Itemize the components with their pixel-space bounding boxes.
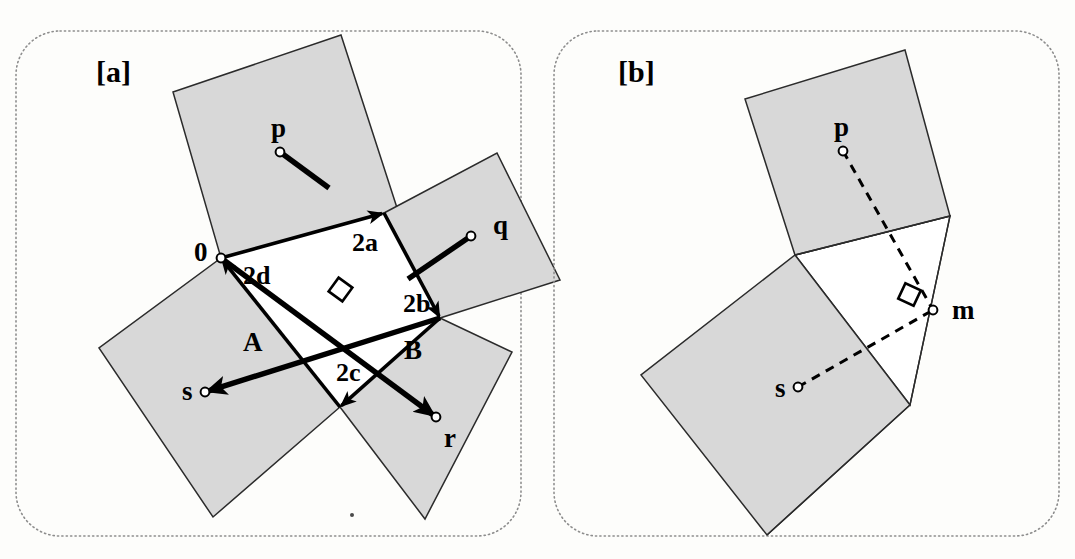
node-s-label: s (182, 376, 193, 406)
measure-2b-label: 2b (403, 289, 430, 318)
panel-b-tag: [b] (618, 55, 655, 88)
node-m-label: m (952, 295, 975, 325)
node-origin-label: 0 (194, 237, 208, 267)
panel-a-tag: [a] (96, 55, 131, 88)
panel-a: [a] p q r s 0 2a 2b (16, 31, 560, 536)
node-p (276, 148, 285, 157)
measure-2d-label: 2d (243, 261, 271, 290)
node-origin (217, 254, 226, 263)
node-q (467, 232, 476, 241)
page-speck (350, 513, 354, 517)
node-q-label: q (493, 210, 508, 240)
node-r-label: r (444, 423, 456, 453)
vector-A-label: A (243, 327, 263, 357)
node-s (201, 388, 210, 397)
measure-2c-label: 2c (336, 358, 361, 387)
node-p (839, 147, 848, 156)
measure-2a-label: 2a (352, 228, 378, 257)
node-p-label: p (271, 113, 286, 143)
node-s-label: s (775, 373, 786, 403)
panel-b: [b] p s m (554, 31, 1059, 536)
vector-B-label: B (404, 335, 422, 365)
node-r (432, 413, 441, 422)
node-s (794, 383, 803, 392)
figure-root: [a] p q r s 0 2a 2b (0, 0, 1075, 559)
figure-canvas: [a] p q r s 0 2a 2b (0, 0, 1075, 559)
node-m (929, 306, 938, 315)
node-p-label: p (834, 112, 849, 142)
